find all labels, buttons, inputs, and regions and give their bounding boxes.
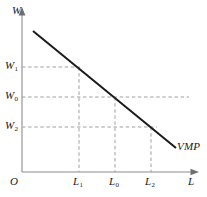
y-tick-w1-base: W <box>5 59 14 71</box>
y-tick-w0-sub: 0 <box>14 95 18 103</box>
y-tick-w2-base: W <box>5 119 14 131</box>
y-axis-label: W <box>12 5 21 16</box>
origin-label: O <box>10 176 18 187</box>
x-tick-label-l2: L2 <box>145 176 155 187</box>
y-tick-w1-sub: 1 <box>14 65 18 73</box>
vmp-curve <box>33 31 176 148</box>
y-tick-label-w2: W2 <box>5 120 18 131</box>
chart-canvas <box>0 0 207 197</box>
x-tick-label-l1: L1 <box>73 176 83 187</box>
y-tick-label-w1: W1 <box>5 60 18 71</box>
y-tick-w2-sub: 2 <box>14 125 18 133</box>
x-tick-label-l0: L0 <box>109 176 119 187</box>
y-tick-label-w0: W0 <box>5 90 18 101</box>
vmp-curve-label: VMP <box>177 141 200 152</box>
x-axis-label: L <box>188 176 194 187</box>
y-tick-w0-base: W <box>5 89 14 101</box>
x-tick-l2-sub: 2 <box>151 181 155 189</box>
x-tick-l0-sub: 0 <box>115 181 119 189</box>
vmp-labor-demand-figure: W L O W1 W0 W2 L1 L0 L2 VMP <box>0 0 207 197</box>
x-tick-l1-sub: 1 <box>79 181 83 189</box>
